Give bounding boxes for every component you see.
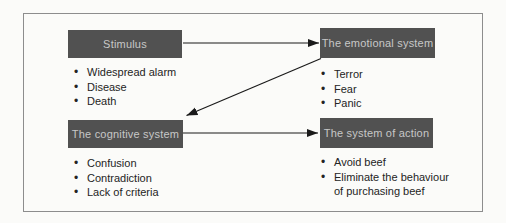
bullet-item: Confusion [74, 156, 219, 171]
bullet-item: Terror [321, 67, 441, 82]
bullet-item: Panic [321, 96, 441, 111]
bullet-item: Disease [74, 80, 219, 95]
bullet-list-action: Avoid beef Eliminate the behaviour of pu… [321, 155, 461, 199]
bullet-list-emotional: Terror Fear Panic [321, 67, 441, 111]
bullet-item: Death [74, 94, 219, 109]
bullet-item: Fear [321, 82, 441, 97]
bullet-item: Lack of criteria [74, 185, 219, 200]
box-system-of-action: The system of action [320, 118, 433, 148]
bullet-item: Contradiction [74, 171, 219, 186]
bullet-item: Widespread alarm [74, 65, 219, 80]
bullet-item: Avoid beef [321, 155, 461, 170]
box-emotional-system: The emotional system [320, 28, 435, 58]
bullet-list-cognitive: Confusion Contradiction Lack of criteria [74, 156, 219, 200]
box-stimulus: Stimulus [68, 30, 182, 58]
bullet-item: Eliminate the behaviour of purchasing be… [321, 170, 461, 199]
figure-canvas: Stimulus The emotional system The cognit… [0, 0, 506, 223]
bullet-list-stimulus: Widespread alarm Disease Death [74, 65, 219, 109]
box-cognitive-system: The cognitive system [68, 120, 183, 148]
